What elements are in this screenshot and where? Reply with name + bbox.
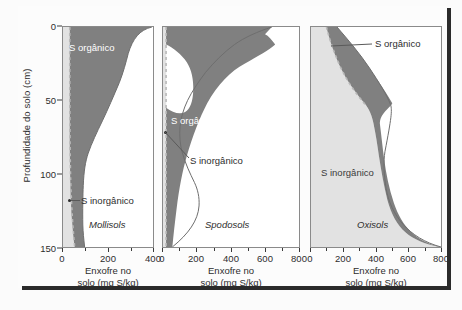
y-tick-label-100: 100 (16, 169, 56, 180)
x-axis-title-line2: solo (mg S/kg) (345, 277, 406, 288)
x-tick-mark-600 (265, 248, 266, 252)
y-tick-label-0: 0 (16, 21, 56, 32)
x-tick-mark-800 (441, 248, 442, 252)
x-axis-title-oxisols: Enxofre no solo (mg S/kg) (310, 265, 442, 288)
panel-oxisols: S inorgânico Oxisols (310, 26, 442, 248)
x-tick-label-600: 600 (400, 253, 416, 264)
x-tick-label-800: 800 (291, 253, 307, 264)
x-tick-mark-300 (131, 248, 132, 251)
x-tick-mark-300 (359, 248, 360, 251)
x-axis-spodosols: 0 200 400 600 800 Enxofre no solo (mg S/… (162, 248, 300, 282)
x-axis-mollisols: 0 200 400 Enxofre no solo (mg S/kg) (62, 248, 154, 282)
panel-mollisols: S orgânico Mollisols (62, 26, 154, 248)
area-inorganic-oxisols (311, 27, 439, 247)
x-tick-mark-100 (179, 248, 180, 251)
x-tick-mark-400 (153, 248, 154, 252)
panel-mollisols-soil-name: Mollisols (89, 219, 125, 230)
x-tick-label-600: 600 (257, 253, 273, 264)
panel-spodosols-soil-name: Spodosols (205, 219, 249, 230)
x-tick-label-0: 0 (159, 253, 164, 264)
panel-mollisols-inorganic-label: S inorgânico (81, 195, 134, 206)
x-tick-label-0: 0 (307, 253, 312, 264)
x-tick-mark-400 (376, 248, 377, 252)
panel-spodosols-inorganic-label: S inorgânico (190, 155, 243, 166)
y-tick-label-50: 50 (16, 95, 56, 106)
x-tick-mark-400 (231, 248, 232, 252)
x-tick-mark-500 (248, 248, 249, 251)
y-axis-title: Profundidade do solo (cm) (21, 26, 32, 226)
x-tick-mark-200 (343, 248, 344, 252)
panel-mollisols-inorganic-leader (71, 200, 80, 201)
x-tick-mark-200 (196, 248, 197, 252)
x-axis-title-line1: Enxofre no (85, 265, 131, 276)
x-axis-oxisols: 0 200 400 600 800 Enxofre no solo (mg S/… (310, 248, 442, 282)
y-tick-label-150: 150 (16, 243, 56, 254)
panel-oxisols-plot (311, 27, 441, 247)
x-tick-mark-0 (310, 248, 311, 252)
panel-oxisols-soil-name: Oxisols (357, 219, 388, 230)
x-tick-label-200: 200 (188, 253, 204, 264)
figure-soil-sulfur-profiles: Profundidade do solo (cm) 0 50 100 150 S… (0, 0, 462, 310)
figure-frame-right-rule (447, 8, 451, 290)
x-axis-title-line1: Enxofre no (353, 265, 399, 276)
panel-mollisols-plot (63, 27, 153, 247)
x-tick-mark-600 (408, 248, 409, 252)
y-axis: Profundidade do solo (cm) 0 50 100 150 (0, 26, 62, 248)
x-tick-label-800: 800 (433, 253, 449, 264)
x-tick-mark-100 (85, 248, 86, 251)
x-tick-label-400: 400 (368, 253, 384, 264)
x-axis-title-line1: Enxofre no (208, 265, 254, 276)
x-tick-mark-0 (62, 248, 63, 252)
x-tick-label-200: 200 (335, 253, 351, 264)
x-axis-title-spodosols: Enxofre no solo (mg S/kg) (162, 265, 300, 288)
panel-oxisols-organic-leader (330, 40, 374, 50)
x-tick-label-400: 400 (223, 253, 239, 264)
x-tick-mark-700 (425, 248, 426, 251)
x-tick-mark-0 (162, 248, 163, 252)
x-tick-mark-700 (282, 248, 283, 251)
x-axis-title-line2: solo (mg S/kg) (200, 277, 261, 288)
x-tick-mark-300 (214, 248, 215, 251)
area-organic-mollisols (70, 27, 152, 247)
x-tick-mark-800 (299, 248, 300, 252)
x-tick-label-200: 200 (100, 253, 116, 264)
x-tick-mark-100 (326, 248, 327, 251)
x-axis-title-line2: solo (mg S/kg) (77, 277, 138, 288)
x-tick-label-0: 0 (59, 253, 64, 264)
x-axis-title-mollisols: Enxofre no solo (mg S/kg) (62, 265, 154, 288)
panel-oxisols-organic-label: S orgânico (375, 38, 420, 49)
x-tick-mark-500 (392, 248, 393, 251)
x-tick-mark-200 (108, 248, 109, 252)
